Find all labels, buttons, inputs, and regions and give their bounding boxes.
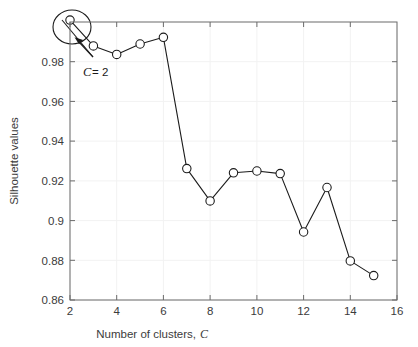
y-tick-label-5: 0.96 — [42, 96, 64, 108]
data-point-c12 — [299, 228, 307, 236]
data-point-c10 — [253, 167, 261, 175]
x-tick-label-3: 8 — [207, 305, 213, 317]
data-point-c8 — [206, 197, 214, 205]
x-tick-label-0: 2 — [67, 305, 73, 317]
y-tick-label-1: 0.88 — [42, 255, 64, 267]
data-point-c9 — [229, 169, 237, 177]
y-tick-label-0: 0.86 — [42, 294, 64, 306]
x-tick-label-7: 16 — [391, 305, 404, 317]
x-tick-label-5: 12 — [297, 305, 310, 317]
x-tick-labels: 2 4 6 8 10 12 14 16 — [67, 305, 404, 317]
annotation-label-rest: = 2 — [92, 66, 108, 78]
x-axis-title: Number of clusters, — [96, 328, 196, 340]
data-point-c13 — [323, 183, 331, 191]
silhouette-line-chart: C = 2 — [0, 0, 418, 347]
x-tick-label-1: 4 — [113, 305, 120, 317]
x-tick-label-4: 10 — [251, 305, 264, 317]
y-tick-label-6: 0.98 — [42, 56, 64, 68]
annotation-label-italic: C — [83, 65, 92, 79]
y-axis-title: Silhouette values — [8, 117, 20, 205]
chart-figure: C = 2 — [0, 0, 418, 347]
data-point-c7 — [183, 164, 191, 172]
data-point-c4 — [113, 50, 121, 58]
y-tick-label-3: 0.92 — [42, 175, 64, 187]
y-tick-labels: 0.86 0.88 0.9 0.92 0.94 0.96 0.98 — [42, 56, 65, 306]
data-point-c6 — [159, 33, 167, 41]
x-tick-label-2: 6 — [160, 305, 166, 317]
y-tick-label-4: 0.94 — [42, 135, 65, 147]
data-point-c11 — [276, 169, 284, 177]
data-point-c15 — [370, 271, 378, 279]
y-tick-label-2: 0.9 — [48, 215, 64, 227]
data-point-c3 — [89, 42, 97, 50]
x-tick-label-6: 14 — [344, 305, 357, 317]
x-axis-title-variable: C — [200, 327, 209, 341]
data-point-c5 — [136, 40, 144, 48]
data-point-c14 — [346, 257, 354, 265]
